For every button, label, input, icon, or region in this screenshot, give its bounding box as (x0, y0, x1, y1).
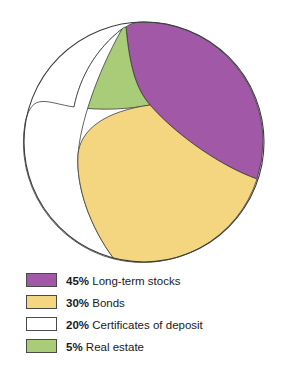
legend-percent-certificates-of-deposit: 20% (66, 319, 89, 331)
legend-swatch-real-estate (26, 339, 57, 353)
legend-swatch-certificates-of-deposit (26, 317, 57, 331)
legend-label-certificates-of-deposit: Certificates of deposit (92, 319, 203, 331)
legend-item-real-estate[interactable]: 5% Real estate (0, 336, 289, 358)
legend-item-long-term-stocks[interactable]: 45% Long-term stocks (0, 270, 289, 292)
legend-label-real-estate: Real estate (86, 341, 144, 353)
legend-percent-bonds: 30% (66, 297, 89, 309)
pie-chart-figure: 45% Long-term stocks 30% Bonds 20% Certi… (0, 0, 289, 376)
legend-percent-real-estate: 5% (66, 341, 83, 353)
legend-text-long-term-stocks: 45% Long-term stocks (66, 270, 180, 292)
pie-chart-graphic (18, 17, 270, 269)
legend-text-certificates-of-deposit: 20% Certificates of deposit (66, 314, 203, 336)
legend-item-certificates-of-deposit[interactable]: 20% Certificates of deposit (0, 314, 289, 336)
pie-svg (18, 17, 270, 269)
legend-label-long-term-stocks: Long-term stocks (92, 275, 180, 287)
legend-percent-long-term-stocks: 45% (66, 275, 89, 287)
legend-swatch-long-term-stocks (26, 273, 57, 287)
legend-text-real-estate: 5% Real estate (66, 336, 144, 358)
chart-legend: 45% Long-term stocks 30% Bonds 20% Certi… (0, 270, 289, 358)
legend-item-bonds[interactable]: 30% Bonds (0, 292, 289, 314)
legend-swatch-bonds (26, 295, 57, 309)
legend-text-bonds: 30% Bonds (66, 292, 125, 314)
legend-label-bonds: Bonds (92, 297, 125, 309)
